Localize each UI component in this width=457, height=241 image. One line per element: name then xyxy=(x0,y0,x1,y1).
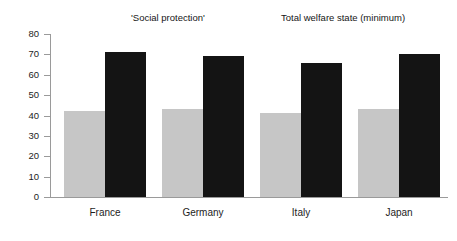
y-tick-label: 80 xyxy=(28,29,39,39)
y-tick-mark xyxy=(44,197,51,198)
x-axis-label: Italy xyxy=(292,208,310,218)
plot-area: 01020304050607080 xyxy=(50,34,448,197)
y-tick-label: 20 xyxy=(28,152,39,162)
legend-label-total-welfare-state: Total welfare state (minimum) xyxy=(281,13,405,23)
x-axis-label: France xyxy=(89,208,120,218)
bar xyxy=(399,54,440,197)
y-tick-mark xyxy=(44,156,51,157)
legend-swatch-total-welfare-state xyxy=(226,11,270,25)
y-tick-mark xyxy=(44,95,51,96)
y-tick-label: 40 xyxy=(28,111,39,121)
y-tick-label: 60 xyxy=(28,70,39,80)
x-axis-label: Japan xyxy=(385,208,412,218)
legend-label-social-protection: 'Social protection' xyxy=(131,13,205,23)
legend-item-total-welfare-state: Total welfare state (minimum) xyxy=(226,8,405,28)
y-tick-mark xyxy=(44,116,51,117)
y-tick-label: 50 xyxy=(28,90,39,100)
y-tick-mark xyxy=(44,34,51,35)
bar xyxy=(203,56,244,197)
bar-chart: 'Social protection' Total welfare state … xyxy=(0,0,457,241)
legend-item-social-protection: 'Social protection' xyxy=(82,8,205,28)
bar xyxy=(301,63,342,197)
x-axis-label: Germany xyxy=(182,208,223,218)
y-tick-mark xyxy=(44,54,51,55)
x-axis-line xyxy=(50,197,448,198)
legend-swatch-social-protection xyxy=(82,12,120,25)
y-tick-label: 10 xyxy=(28,172,39,182)
y-tick-mark xyxy=(44,136,51,137)
bar xyxy=(358,109,399,197)
chart-legend: 'Social protection' Total welfare state … xyxy=(0,8,457,32)
y-tick-mark xyxy=(44,177,51,178)
y-tick-label: 0 xyxy=(34,192,39,202)
bar xyxy=(105,52,146,197)
bar xyxy=(162,109,203,197)
y-tick-label: 70 xyxy=(28,50,39,60)
y-tick-label: 30 xyxy=(28,131,39,141)
bar xyxy=(64,111,105,197)
bar xyxy=(260,113,301,197)
y-tick-mark xyxy=(44,75,51,76)
